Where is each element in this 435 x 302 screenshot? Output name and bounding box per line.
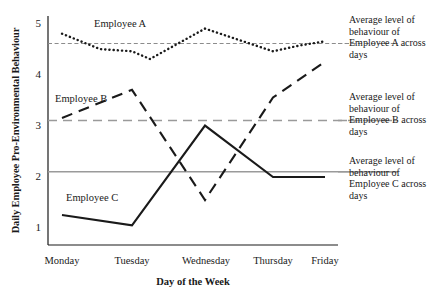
x-tick-tuesday: Tuesday	[100, 255, 164, 266]
x-tick-monday: Monday	[30, 255, 94, 266]
x-tick-thursday: Thursday	[242, 255, 304, 266]
y-tick-4: 4	[25, 68, 41, 80]
y-tick-1: 1	[25, 221, 41, 233]
x-tick-wednesday: Wednesday	[170, 255, 242, 266]
y-tick-2: 2	[25, 170, 41, 182]
x-axis-title: Day of the Week	[48, 276, 338, 287]
chart-figure: Daily Employee Pro-Environmental Behavio…	[0, 0, 435, 302]
x-tick-friday: Friday	[297, 255, 353, 266]
annotation-employee-c-average: Average level of behaviour of Employee C…	[349, 155, 435, 201]
series-line-employee-c	[62, 126, 325, 226]
series-label-employee-b: Employee B	[55, 93, 107, 104]
y-axis-title: Daily Employee Pro-Environmental Behavio…	[10, 23, 21, 238]
annotation-employee-a-average: Average level of behaviour of Employee A…	[349, 14, 435, 60]
series-label-employee-a: Employee A	[94, 18, 146, 29]
y-tick-5: 5	[25, 17, 41, 29]
series-label-employee-c: Employee C	[66, 192, 118, 203]
y-tick-3: 3	[25, 119, 41, 131]
annotation-employee-b-average: Average level of behaviour of Employee B…	[349, 91, 435, 137]
series-line-employee-b	[62, 62, 325, 200]
